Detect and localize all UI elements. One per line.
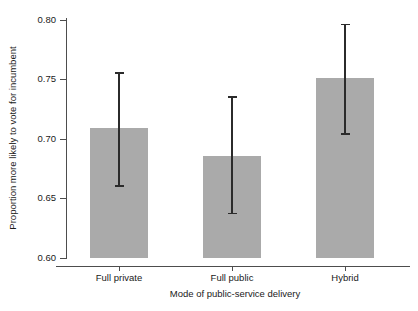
error-bar-upper-cap-full-private bbox=[115, 72, 124, 74]
y-tick-mark-080 bbox=[60, 20, 67, 21]
y-tick-mark-065 bbox=[60, 198, 67, 199]
error-bar-line-hybrid bbox=[344, 24, 346, 133]
y-tick-label-060: 0.60 bbox=[28, 253, 56, 263]
error-bar-line-full-private bbox=[118, 72, 120, 185]
x-axis-title: Mode of public-service delivery bbox=[60, 288, 410, 299]
x-tick-mark-full-private bbox=[119, 266, 120, 271]
y-tick-label-070-wrap: 0.70 bbox=[28, 134, 56, 144]
y-tick-label-065-wrap: 0.65 bbox=[28, 193, 56, 203]
y-tick-mark-075 bbox=[60, 79, 67, 80]
x-tick-mark-full-public bbox=[232, 266, 233, 271]
error-bar-lower-cap-full-private bbox=[115, 185, 124, 187]
y-tick-label-080: 0.80 bbox=[28, 15, 56, 25]
y-tick-label-080-wrap: 0.80 bbox=[28, 15, 56, 25]
y-tick-label-075: 0.75 bbox=[28, 74, 56, 84]
y-tick-mark-060 bbox=[60, 258, 67, 259]
y-tick-label-065: 0.65 bbox=[28, 193, 56, 203]
error-bar-lower-cap-hybrid bbox=[341, 133, 350, 135]
x-tick-mark-hybrid bbox=[345, 266, 346, 271]
y-tick-label-075-wrap: 0.75 bbox=[28, 74, 56, 84]
y-tick-mark-070 bbox=[60, 139, 67, 140]
error-bar-line-full-public bbox=[231, 96, 233, 213]
x-tick-label-hybrid: Hybrid bbox=[290, 272, 400, 284]
x-tick-label-full-public: Full public bbox=[177, 272, 287, 284]
bar-chart-figure: Proportion more likely to vote for incum… bbox=[0, 0, 418, 311]
y-axis-title: Proportion more likely to vote for incum… bbox=[4, 8, 22, 268]
error-bar-upper-cap-full-public bbox=[228, 96, 237, 98]
y-tick-label-070: 0.70 bbox=[28, 134, 56, 144]
y-tick-label-060-wrap: 0.60 bbox=[28, 253, 56, 263]
x-axis-line bbox=[56, 266, 410, 267]
error-bar-upper-cap-hybrid bbox=[341, 24, 350, 26]
error-bar-lower-cap-full-public bbox=[228, 213, 237, 215]
x-tick-label-full-private: Full private bbox=[64, 272, 174, 284]
